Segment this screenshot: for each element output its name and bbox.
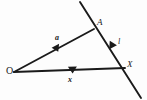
line-label-l: l bbox=[118, 38, 120, 46]
vector-a-arrowhead bbox=[52, 44, 63, 54]
vector-a-shaft bbox=[14, 29, 94, 72]
vector-label-x: x bbox=[68, 76, 72, 84]
point-label-a: A bbox=[97, 18, 103, 27]
point-label-o: O bbox=[6, 66, 13, 76]
vector-label-a: a bbox=[55, 34, 59, 42]
diagram-canvas bbox=[0, 0, 147, 100]
line-l bbox=[80, 2, 141, 98]
point-label-x: X bbox=[127, 60, 133, 69]
vector-diagram-figure: O A X a x l bbox=[0, 0, 147, 100]
